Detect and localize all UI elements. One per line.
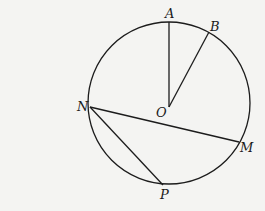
label-p: P (159, 187, 169, 202)
label-n: N (76, 99, 89, 114)
label-a: A (164, 6, 174, 21)
label-o: O (156, 105, 167, 120)
label-b: B (209, 19, 220, 34)
circle-diagram: A B O N M P (0, 0, 265, 211)
segment-ob (169, 32, 209, 107)
label-m: M (239, 140, 254, 155)
